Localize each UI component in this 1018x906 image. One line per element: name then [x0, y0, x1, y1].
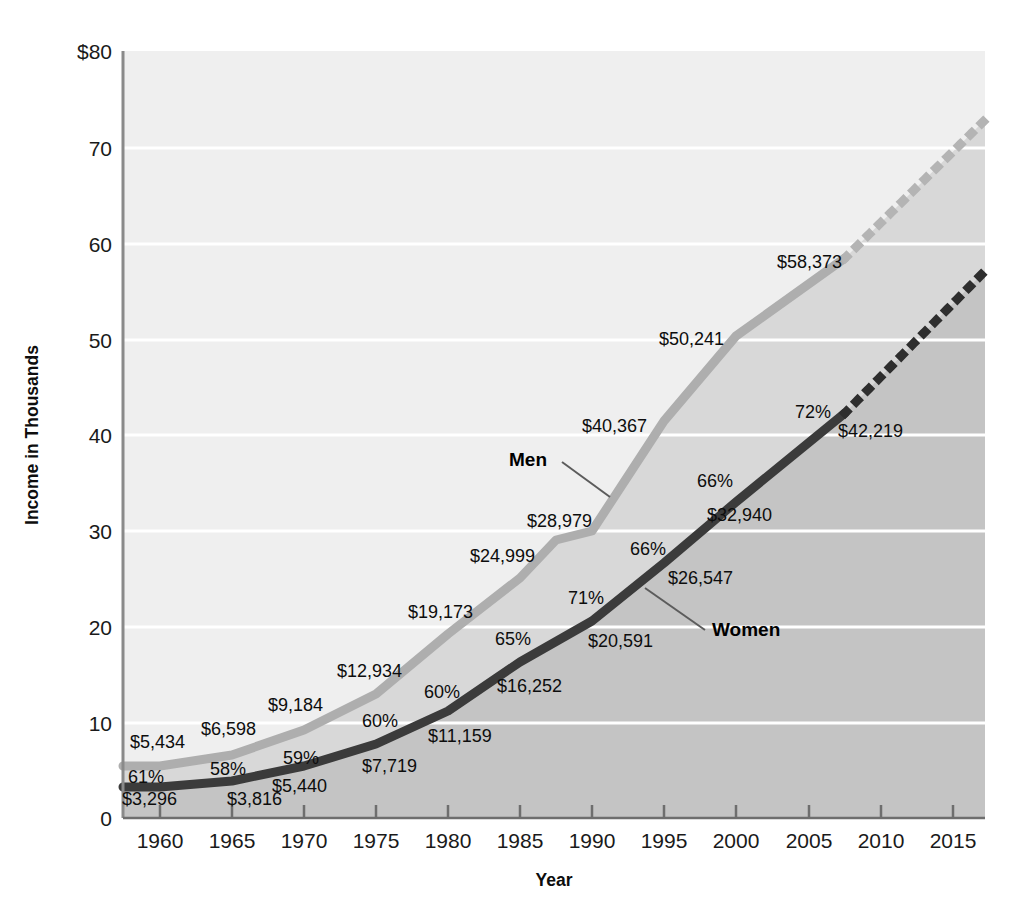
women-series-label: Women [712, 619, 780, 640]
y-tick-10: 10 [89, 712, 112, 735]
women-label-2000: $32,940 [707, 505, 772, 525]
x-tick-1975: 1975 [353, 829, 400, 852]
men-label-1985: $24,999 [470, 546, 535, 566]
women-label-2008: $42,219 [838, 421, 903, 441]
chart-page: $80 70 60 50 40 30 20 10 0 Income in Tho… [0, 0, 1018, 906]
x-tick-2015: 2015 [930, 829, 977, 852]
x-tick-2010: 2010 [858, 829, 905, 852]
y-tick-20: 20 [89, 616, 112, 639]
women-label-1985: $16,252 [497, 676, 562, 696]
men-label-1995: $40,367 [582, 416, 647, 436]
women-label-1975: $7,719 [362, 756, 417, 776]
ratio-label-1975: 60% [362, 711, 398, 731]
y-tick-40: 40 [89, 424, 112, 447]
ratio-label-1970: 59% [283, 748, 319, 768]
ratio-label-1965: 58% [210, 759, 246, 779]
women-label-1995: $26,547 [668, 568, 733, 588]
women-label-1970: $5,440 [272, 776, 327, 796]
men-label-1965: $6,598 [201, 719, 256, 739]
x-tick-1960: 1960 [137, 829, 184, 852]
x-tick-1995: 1995 [641, 829, 688, 852]
y-tick-50: 50 [89, 329, 112, 352]
ratio-label-1960: 61% [128, 767, 164, 787]
x-tick-1965: 1965 [209, 829, 256, 852]
ratio-label-2000: 66% [697, 471, 733, 491]
men-label-2000: $50,241 [659, 329, 724, 349]
women-label-1980: $11,159 [428, 726, 492, 746]
x-tick-1980: 1980 [425, 829, 472, 852]
ratio-label-2008: 72% [795, 402, 831, 422]
ratio-label-1985: 65% [495, 629, 531, 649]
women-label-1960: $3,296 [122, 789, 177, 809]
x-tick-1990: 1990 [569, 829, 616, 852]
men-label-1975: $12,934 [337, 661, 402, 681]
x-tick-2000: 2000 [713, 829, 760, 852]
x-tick-1985: 1985 [497, 829, 544, 852]
y-tick-60: 60 [89, 233, 112, 256]
y-tick-80: $80 [77, 40, 112, 63]
y-tick-70: 70 [89, 137, 112, 160]
men-label-1960: $5,434 [130, 732, 185, 752]
men-label-1980: $19,173 [408, 602, 473, 622]
income-gap-line-chart: $80 70 60 50 40 30 20 10 0 Income in Tho… [0, 0, 1018, 906]
men-label-1970: $9,184 [268, 695, 323, 715]
men-label-2008: $58,373 [777, 252, 842, 272]
x-tick-1970: 1970 [281, 829, 328, 852]
ratio-label-1980: 60% [424, 682, 460, 702]
ratio-label-1990: 71% [568, 588, 604, 608]
y-axis-title: Income in Thousands [22, 345, 42, 525]
y-tick-30: 30 [89, 520, 112, 543]
x-tick-2005: 2005 [786, 829, 833, 852]
x-axis-title: Year [536, 870, 573, 890]
y-tick-0: 0 [100, 807, 112, 830]
men-label-1990: $28,979 [527, 511, 592, 531]
men-series-label: Men [509, 449, 547, 470]
ratio-label-1995: 66% [630, 539, 666, 559]
women-label-1990: $20,591 [588, 631, 653, 651]
